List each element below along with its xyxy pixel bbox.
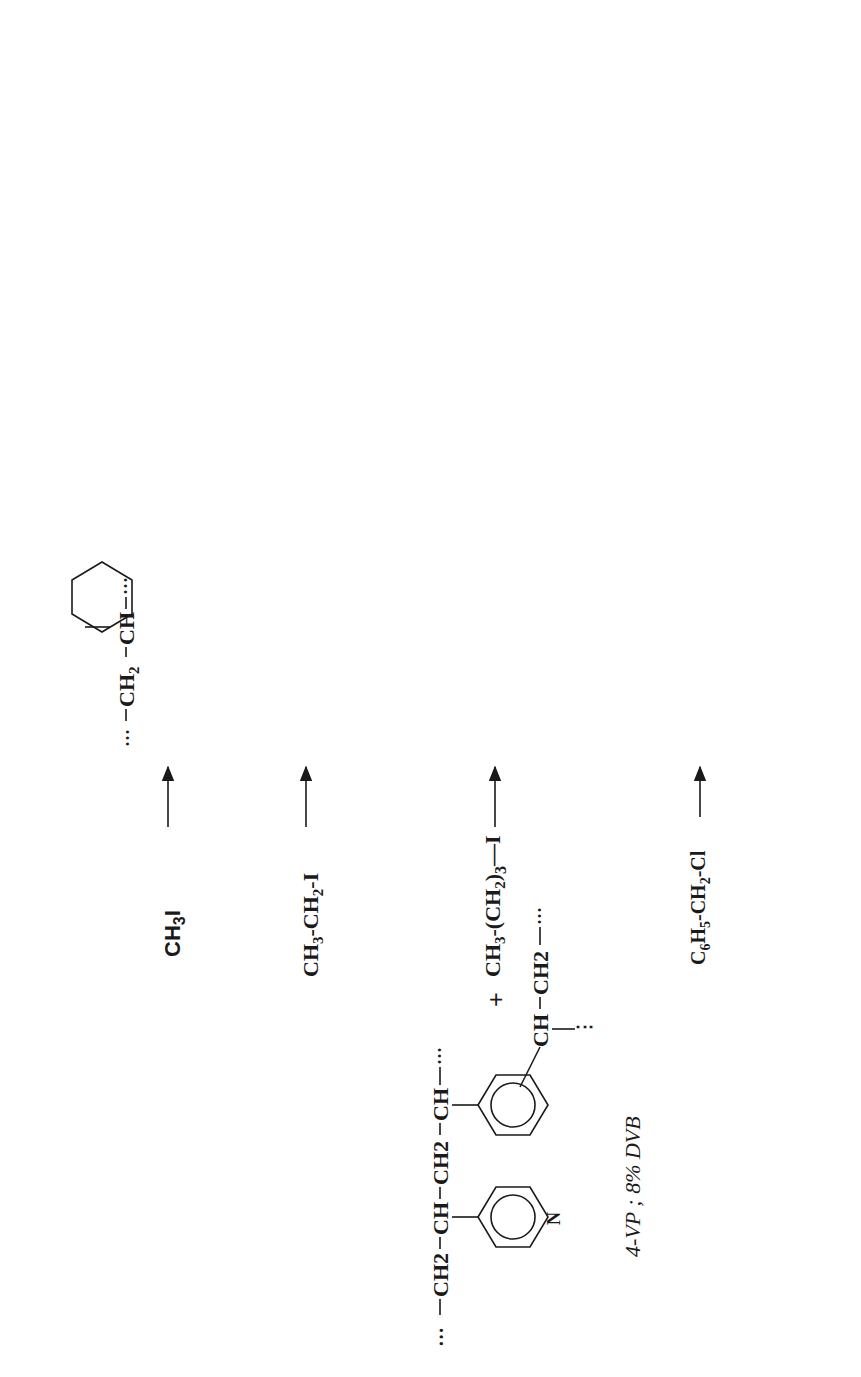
svg-text:···: ··· (430, 1327, 452, 1347)
svg-text:···: ··· (116, 577, 136, 595)
svg-text:C6H5-CH2-Cl: C6H5-CH2-Cl (687, 850, 713, 965)
polymer-label: 4-VP ; 8% DVB (620, 1116, 645, 1257)
svg-text:CH: CH (428, 1088, 453, 1121)
starting-polymer: ··· CH2 CH CH2 CH ··· N CH CH2 ··· ⋮ (428, 907, 645, 1347)
svg-text:CH2: CH2 (114, 667, 142, 708)
svg-text:CH2: CH2 (428, 1141, 453, 1185)
reagent-r4: C6H5-CH2-Cl (687, 850, 713, 965)
plus-sign: + (482, 992, 511, 1007)
reagent-r2: CH3-CH2-I (298, 873, 326, 977)
svg-text:CH: CH (428, 1202, 453, 1235)
reagent-r3: CH3-(CH2)3—I (480, 835, 509, 977)
svg-text:⋮: ⋮ (574, 1018, 594, 1036)
reaction-scheme: ··· CH2 CH CH2 CH ··· N CH CH2 ··· ⋮ (0, 0, 861, 1377)
svg-text:···: ··· (118, 729, 138, 747)
pyridine-ring: N (478, 1187, 564, 1247)
pyridine-nitrogen: N (544, 1212, 564, 1225)
svg-text:···: ··· (430, 1047, 450, 1065)
svg-text:CH3-(CH2)3—I: CH3-(CH2)3—I (480, 835, 509, 977)
svg-text:CH2: CH2 (528, 951, 553, 995)
svg-text:CH: CH (528, 1014, 553, 1047)
svg-text:CH3I: CH3I (160, 910, 188, 957)
svg-text:CH3-CH2-I: CH3-CH2-I (298, 873, 326, 977)
svg-text:···: ··· (530, 907, 550, 925)
reagent-r1: CH3I (160, 910, 188, 957)
chain-ch2-1: CH2 (428, 1253, 453, 1297)
quaternized-q1: ··· CH2 CH ··· (72, 562, 142, 747)
dvb-ring (478, 1047, 548, 1135)
